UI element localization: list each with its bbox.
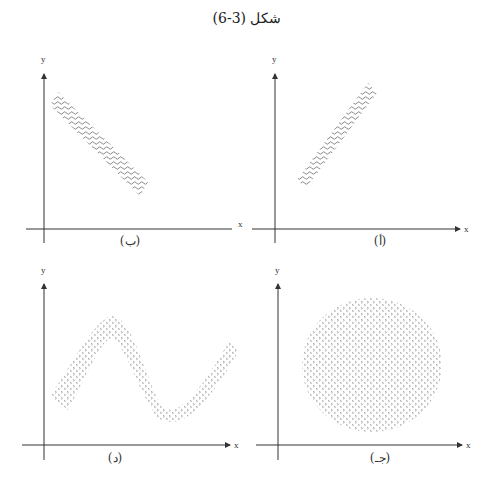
wave-band xyxy=(50,316,238,422)
x-axis-label: x xyxy=(238,219,243,229)
panel-caption: (أ) xyxy=(374,233,386,248)
panel-j: y x (جـ) xyxy=(256,265,471,465)
y-axis-label: y xyxy=(272,54,277,64)
x-axis-label: x xyxy=(464,224,469,234)
y-axis-label: y xyxy=(41,265,46,275)
y-axis-label: y xyxy=(275,265,280,275)
panel-caption: (د) xyxy=(108,451,122,465)
panel-a: y x (أ) xyxy=(252,54,469,248)
y-axis-label: y xyxy=(41,54,46,64)
panel-caption: (جـ) xyxy=(370,451,390,465)
figure-canvas: y x (ب) y x (أ) y x (د) y x (جـ) xyxy=(0,0,494,490)
panel-b: y x (ب) xyxy=(26,54,243,248)
x-axis-label: x xyxy=(234,440,239,450)
positive-slope-band xyxy=(297,83,377,188)
negative-slope-band xyxy=(50,92,148,196)
panel-caption: (ب) xyxy=(120,234,140,248)
x-axis-label: x xyxy=(466,440,471,450)
circle-region xyxy=(302,298,442,432)
panel-d: y x (د) xyxy=(22,265,239,465)
